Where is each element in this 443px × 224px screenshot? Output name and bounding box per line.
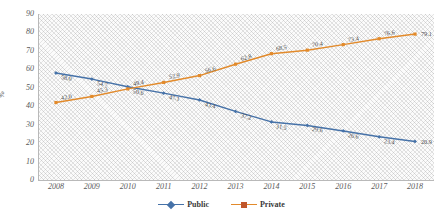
legend-item-public[interactable]: Public	[158, 200, 209, 209]
data-point-label: 20.9	[421, 139, 432, 145]
x-axis-tick: 2008	[36, 182, 76, 191]
x-axis-tick: 2013	[216, 182, 256, 191]
data-point-label: 73.4	[348, 35, 360, 43]
legend-item-private[interactable]: Private	[231, 200, 285, 209]
y-axis-tick: 20	[8, 139, 34, 147]
x-axis-tick: 2016	[323, 182, 363, 191]
x-axis-tick: 2015	[287, 182, 327, 191]
legend-label-public: Public	[187, 200, 209, 209]
y-axis-tick: 60	[8, 65, 34, 73]
y-axis-tick: 80	[8, 28, 34, 36]
legend-label-private: Private	[260, 200, 285, 209]
y-axis-tick: 40	[8, 102, 34, 110]
data-point-label: 79.1	[421, 31, 432, 37]
x-axis-tick: 2010	[108, 182, 148, 191]
plot-area	[38, 14, 434, 181]
data-point-label: 42.0	[60, 93, 72, 101]
legend-swatch-public	[158, 201, 184, 209]
data-point-label: 26.6	[348, 132, 360, 140]
x-axis-tick: 2018	[395, 182, 435, 191]
x-axis-tick: 2009	[72, 182, 112, 191]
y-axis-tick-labels: 9080706050403020100	[4, 14, 34, 180]
y-axis-tick: 10	[8, 158, 34, 166]
x-axis-tick: 2012	[180, 182, 220, 191]
square-marker-icon	[241, 202, 247, 208]
x-axis-tick-labels: 2008200920102011201220132014201520162017…	[38, 182, 433, 196]
diamond-marker-icon	[167, 200, 175, 208]
y-axis-title: %	[0, 91, 6, 98]
y-axis-tick: 90	[8, 10, 34, 18]
data-point-label: 76.6	[384, 29, 396, 37]
x-axis-tick: 2011	[144, 182, 184, 191]
chart-legend: Public Private	[0, 200, 443, 209]
chart-container: 9080706050403020100 % 58.054.750.647.143…	[0, 0, 443, 224]
x-axis-tick: 2017	[359, 182, 399, 191]
x-axis-tick: 2014	[251, 182, 291, 191]
legend-swatch-private	[231, 201, 257, 209]
y-axis-tick: 50	[8, 84, 34, 92]
y-axis-tick: 30	[8, 121, 34, 129]
data-point-label: 23.4	[384, 138, 396, 146]
y-axis-tick: 0	[8, 176, 34, 184]
y-axis-tick: 70	[8, 47, 34, 55]
